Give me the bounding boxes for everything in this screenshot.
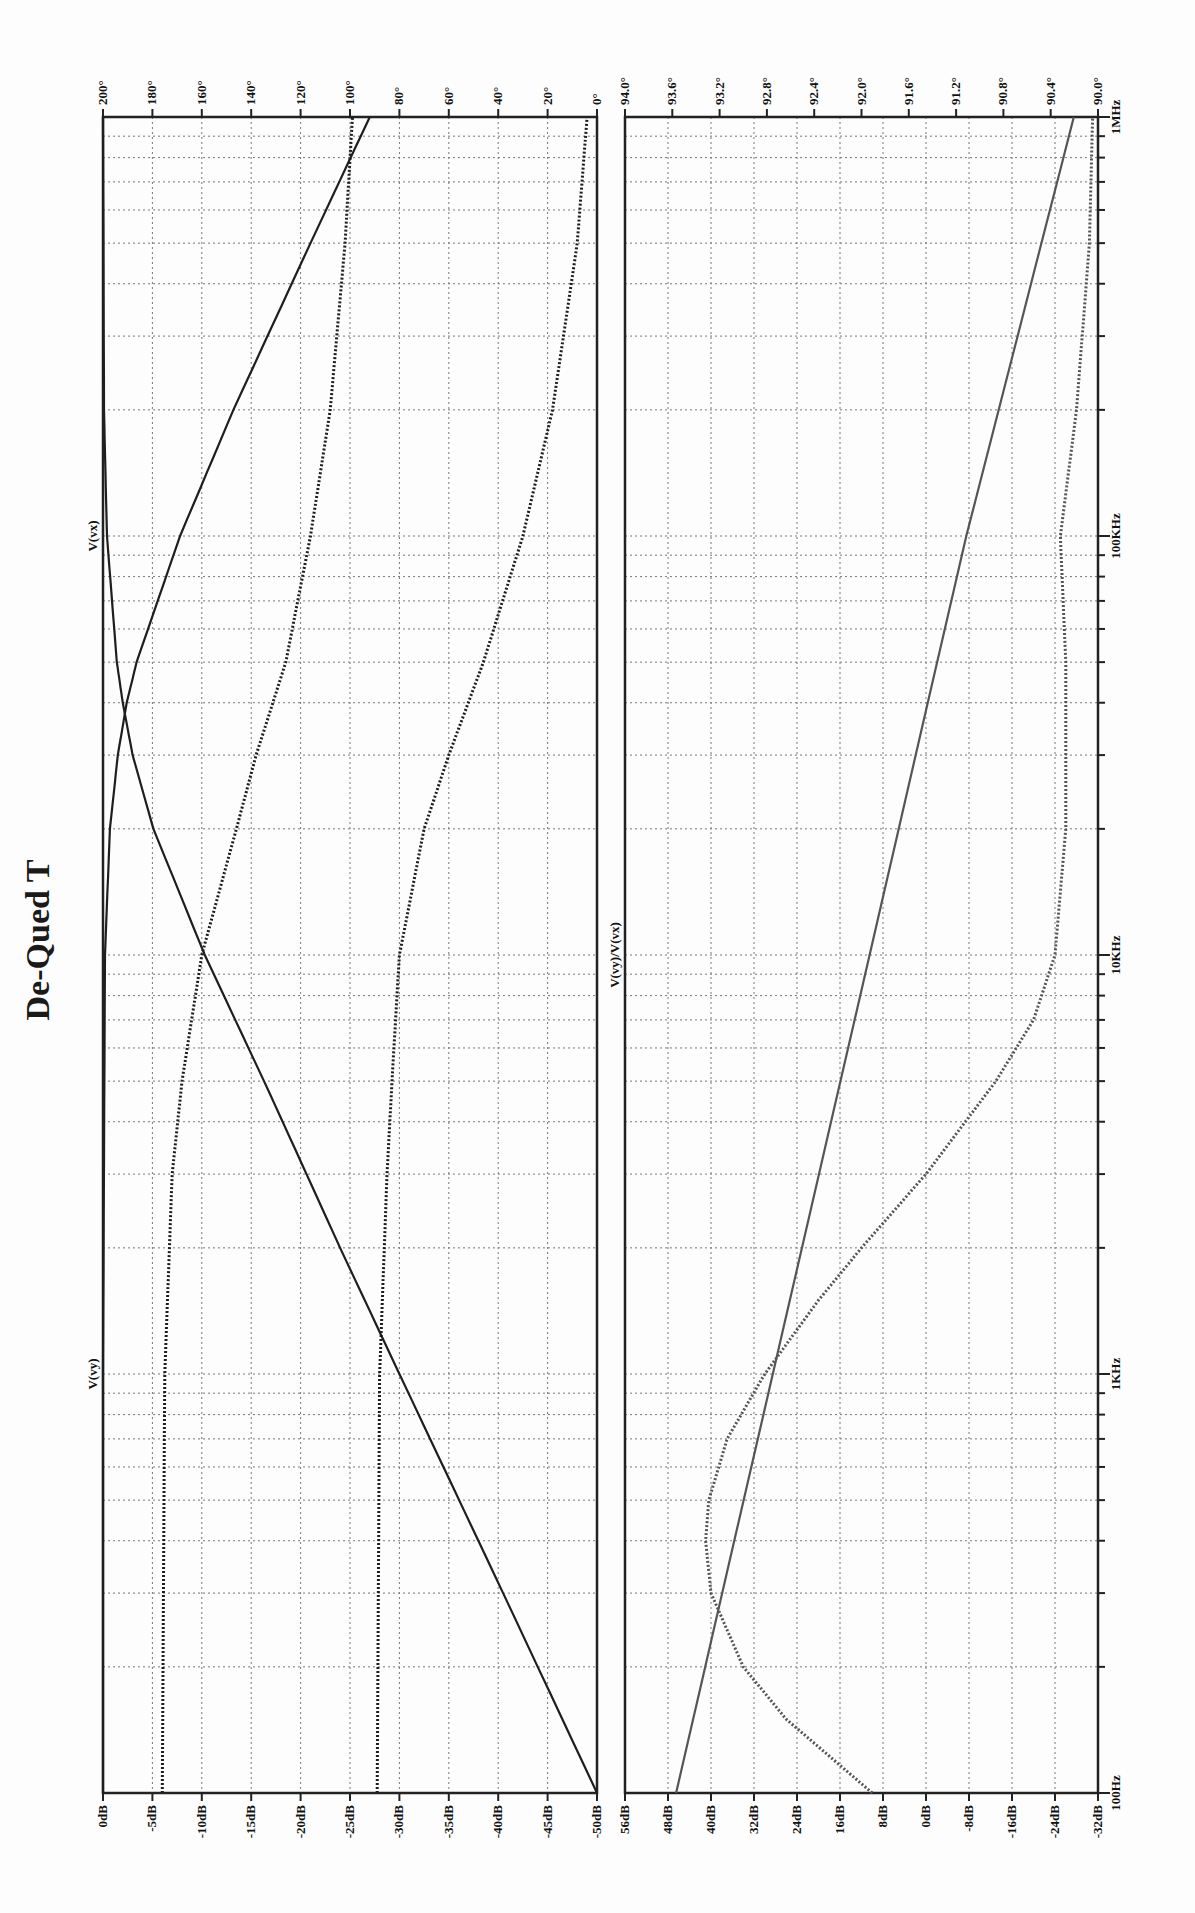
- left-axis-tick-label: 0dB: [95, 1805, 110, 1828]
- left-axis-tick-label: -35dB: [441, 1805, 456, 1839]
- trace-label: V(vx): [85, 520, 100, 551]
- right-axis-tick-label: 94.0°: [617, 77, 632, 105]
- right-axis-tick-label: 92.0°: [854, 77, 869, 105]
- right-axis-tick-label: 80°: [391, 87, 406, 105]
- frequency-tick-label: 1MHz: [1108, 99, 1123, 134]
- right-axis-tick-label: 91.2°: [948, 77, 963, 105]
- left-axis-tick-label: -25dB: [342, 1805, 357, 1839]
- right-axis-tick-label: 160°: [194, 80, 209, 105]
- trace-label: V(vy): [85, 1358, 100, 1389]
- right-axis-tick-label: 0°: [589, 93, 604, 105]
- left-axis-tick-label: -40dB: [490, 1805, 505, 1839]
- right-axis-tick-label: 200°: [95, 80, 110, 105]
- frequency-axis: 100Hz1KHz10KHz100KHz1MHz: [1098, 99, 1123, 1810]
- left-axis-tick-label: 32dB: [746, 1805, 761, 1834]
- frequency-tick-label: 100Hz: [1108, 1775, 1123, 1811]
- left-axis-tick-label: -8dB: [961, 1805, 976, 1832]
- bode-plot: 0dB-5dB-10dB-15dB-20dB-25dB-30dB-35dB-40…: [0, 0, 1195, 1913]
- left-axis-tick-label: -30dB: [391, 1805, 406, 1839]
- right-axis-tick-label: 40°: [490, 87, 505, 105]
- left-axis-tick-label: 56dB: [617, 1805, 632, 1834]
- left-axis-tick-label: 48dB: [660, 1805, 675, 1834]
- left-axis-tick-label: -32dB: [1090, 1805, 1105, 1839]
- left-axis-tick-label: 40dB: [703, 1805, 718, 1834]
- right-axis-tick-label: 180°: [144, 80, 159, 105]
- right-axis-tick-label: 92.4°: [806, 77, 821, 105]
- right-axis-tick-label: 20°: [540, 87, 555, 105]
- frequency-tick-label: 10KHz: [1108, 935, 1123, 974]
- right-axis-tick-label: 91.6°: [901, 77, 916, 105]
- right-axis-tick-label: 90.8°: [995, 77, 1010, 105]
- left-axis-tick-label: -24dB: [1047, 1805, 1062, 1839]
- frequency-tick-label: 1KHz: [1108, 1358, 1123, 1391]
- left-axis-tick-label: -45dB: [540, 1805, 555, 1839]
- left-axis-tick-label: 8dB: [875, 1805, 890, 1828]
- frequency-tick-label: 100KHz: [1108, 513, 1123, 559]
- right-axis-tick-label: 120°: [293, 80, 308, 105]
- left-axis-tick-label: 16dB: [832, 1805, 847, 1834]
- right-axis-tick-label: 93.2°: [712, 77, 727, 105]
- left-axis-tick-label: -5dB: [144, 1805, 159, 1832]
- bottom-panel-ratio-vy-vx: 56dB48dB40dB32dB24dB16dB8dB0dB-8dB-16dB-…: [607, 77, 1105, 1838]
- left-axis-tick-label: 24dB: [789, 1805, 804, 1834]
- right-axis-tick-label: 60°: [441, 87, 456, 105]
- left-axis-tick-label: -16dB: [1004, 1805, 1019, 1839]
- trace-label: V(vy)/V(vx): [607, 922, 622, 988]
- right-axis-tick-label: 90.0°: [1090, 77, 1105, 105]
- right-axis-tick-label: 92.8°: [759, 77, 774, 105]
- left-axis-tick-label: 0dB: [918, 1805, 933, 1828]
- right-axis-tick-label: 90.4°: [1043, 77, 1058, 105]
- left-axis-tick-label: -50dB: [589, 1805, 604, 1839]
- v-vy-v-vx-phase-trace: [706, 117, 1093, 1793]
- left-axis-tick-label: -10dB: [194, 1805, 209, 1839]
- left-axis-tick-label: -15dB: [243, 1805, 258, 1839]
- right-axis-tick-label: 100°: [342, 80, 357, 105]
- right-axis-tick-label: 140°: [243, 80, 258, 105]
- right-axis-tick-label: 93.6°: [664, 77, 679, 105]
- left-axis-tick-label: -20dB: [293, 1805, 308, 1839]
- top-panel-magnitude-phase-vx-vy: 0dB-5dB-10dB-15dB-20dB-25dB-30dB-35dB-40…: [85, 80, 604, 1838]
